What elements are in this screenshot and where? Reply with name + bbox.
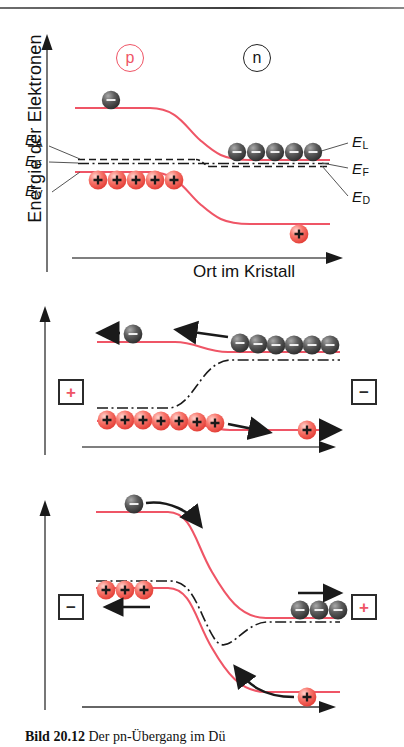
panel-equilibrium [42, 34, 349, 272]
panel1-hole-group [89, 171, 184, 190]
panel-forward-bias [40, 306, 341, 455]
figure-caption: Bild 20.12 Der pn-Übergang im Dü [25, 729, 395, 745]
energy-label-ev: EV [25, 182, 43, 200]
panel2-free-electron [124, 325, 143, 344]
panel3-free-hole [298, 688, 317, 707]
panel-reverse-bias [40, 495, 348, 713]
panel3-bias-left-negative: − [58, 594, 84, 620]
panel1-electron-group [228, 143, 322, 161]
panel3-hole-group [97, 581, 154, 600]
panel3-electron-group [291, 601, 348, 620]
panel1-free-hole [290, 225, 309, 244]
panel2-electron-arrow-mid [178, 330, 228, 337]
figure-caption-number: Bild 20.12 [25, 729, 85, 744]
panel1-free-electron [102, 91, 120, 109]
energy-label-ef-right: EF [352, 160, 369, 178]
panel1-left-leader-lines [49, 146, 80, 192]
panel2-bias-right-negative: − [351, 379, 377, 405]
panel2-free-hole [298, 421, 317, 440]
panel1-right-leader-lines [318, 143, 348, 196]
panel2-fermi-level [97, 360, 340, 408]
band-diagram-artwork [0, 0, 404, 747]
figure-page: Energie der Elektronen Ort im Kristall p… [0, 0, 404, 747]
energy-label-ef-left: EF [25, 152, 42, 170]
energy-label-ea: EA [25, 131, 43, 149]
panel3-electron-curved-arrow [146, 503, 200, 525]
panel2-bias-left-positive: + [58, 379, 84, 405]
x-axis-label: Ort im Kristall [193, 262, 295, 282]
y-axis-label: Energie der Elektronen [25, 14, 46, 244]
panel3-free-electron [125, 495, 144, 514]
region-label-p: p [116, 44, 144, 72]
energy-label-ed: ED [352, 188, 370, 206]
panel2-hole-group [98, 411, 225, 433]
energy-label-el: EL [352, 133, 368, 151]
panel3-bias-right-positive: + [351, 594, 377, 620]
figure-caption-text: Der pn-Übergang im Dü [88, 729, 225, 744]
region-label-n: n [243, 44, 271, 72]
